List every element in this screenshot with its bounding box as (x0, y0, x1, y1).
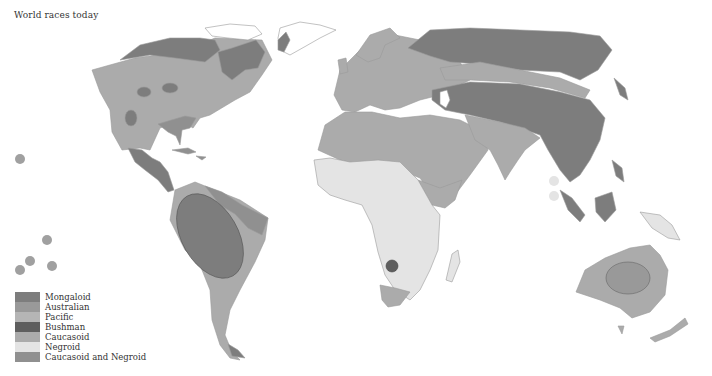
legend-label: Mongaloid (45, 292, 91, 302)
pacific-island-2 (42, 235, 52, 245)
legend-label: Caucasoid (45, 332, 90, 342)
legend-item-australian: Australian (15, 302, 146, 312)
pacific-island-3 (25, 256, 35, 266)
legend-item-pacific: Pacific (15, 312, 146, 322)
legend-swatch (15, 312, 40, 322)
sumatra (560, 190, 585, 222)
central-australia (606, 262, 650, 294)
legend-label: Bushman (45, 322, 85, 332)
legend-swatch (15, 322, 40, 332)
na-spot-3 (125, 110, 137, 126)
pacific-island-7 (549, 191, 559, 201)
legend-label: Caucasoid and Negroid (45, 352, 146, 362)
caribbean (172, 148, 206, 160)
legend-item-caucasoid: Caucasoid (15, 332, 146, 342)
new-zealand (650, 318, 688, 342)
pacific-island-1 (15, 154, 25, 164)
british-isles (338, 58, 348, 74)
kalahari-bushman (386, 260, 398, 272)
legend: Mongaloid Australian Pacific Bushman Cau… (15, 292, 146, 362)
tasmania (618, 326, 624, 334)
pacific-island-6 (549, 176, 559, 186)
legend-swatch (15, 332, 40, 342)
legend-label: Pacific (45, 312, 73, 322)
philippines (612, 160, 624, 182)
legend-item-mongaloid: Mongaloid (15, 292, 146, 302)
new-guinea (640, 212, 680, 240)
legend-label: Negroid (45, 342, 80, 352)
legend-item-caucasoid-and-negroid: Caucasoid and Negroid (15, 352, 146, 362)
legend-item-bushman: Bushman (15, 322, 146, 332)
na-spot-1 (137, 87, 151, 97)
legend-swatch (15, 342, 40, 352)
madagascar (446, 250, 460, 282)
pacific-island-5 (15, 265, 25, 275)
borneo (595, 192, 616, 222)
arctic-islands (205, 24, 262, 40)
legend-label: Australian (45, 302, 90, 312)
pacific-island-4 (47, 261, 57, 271)
japan (614, 78, 628, 100)
na-spot-2 (162, 83, 178, 93)
legend-swatch (15, 302, 40, 312)
legend-swatch (15, 292, 40, 302)
legend-swatch (15, 352, 40, 362)
legend-item-negroid: Negroid (15, 342, 146, 352)
central-america (128, 148, 174, 192)
